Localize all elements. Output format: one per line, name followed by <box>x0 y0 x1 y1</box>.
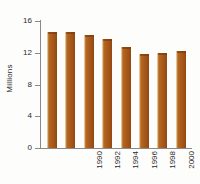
bar-top-edge <box>140 54 149 56</box>
y-tick-mark <box>35 116 40 117</box>
y-tick-mark <box>35 53 40 54</box>
bar-top-edge <box>158 53 167 55</box>
bar-top-edge <box>177 51 186 53</box>
bar-top-edge <box>48 32 57 34</box>
bar[interactable] <box>65 32 75 148</box>
bar[interactable] <box>47 32 57 148</box>
x-axis-line <box>40 148 192 149</box>
bar[interactable] <box>121 47 131 148</box>
y-axis-line <box>40 20 41 149</box>
bar-top-edge <box>103 39 112 41</box>
bar[interactable] <box>102 39 112 148</box>
bar[interactable] <box>176 51 186 148</box>
y-axis-title: Millions <box>5 49 14 109</box>
bar-top-edge <box>122 47 131 49</box>
y-tick-label: 12 <box>2 49 32 57</box>
x-tick-label: 1994 <box>132 151 140 184</box>
x-tick-label: 1990 <box>96 151 104 184</box>
bar[interactable] <box>139 54 149 148</box>
y-tick-label: 8 <box>2 81 32 89</box>
y-tick-mark <box>35 85 40 86</box>
y-tick-mark <box>35 21 40 22</box>
x-tick-label: 2000 <box>188 151 196 184</box>
bar[interactable] <box>84 35 94 148</box>
bar-chart: Millions 1612840 19901992199419961998200… <box>0 0 200 184</box>
y-tick-mark <box>35 148 40 149</box>
y-tick-label: 0 <box>2 144 32 152</box>
x-tick-label: 1992 <box>114 151 122 184</box>
y-tick-label: 4 <box>2 112 32 120</box>
x-tick-label: 1996 <box>151 151 159 184</box>
y-tick-label: 16 <box>2 17 32 25</box>
bar[interactable] <box>157 53 167 148</box>
bar-top-edge <box>66 32 75 34</box>
bar-top-edge <box>85 35 94 37</box>
x-tick-label: 1998 <box>169 151 177 184</box>
